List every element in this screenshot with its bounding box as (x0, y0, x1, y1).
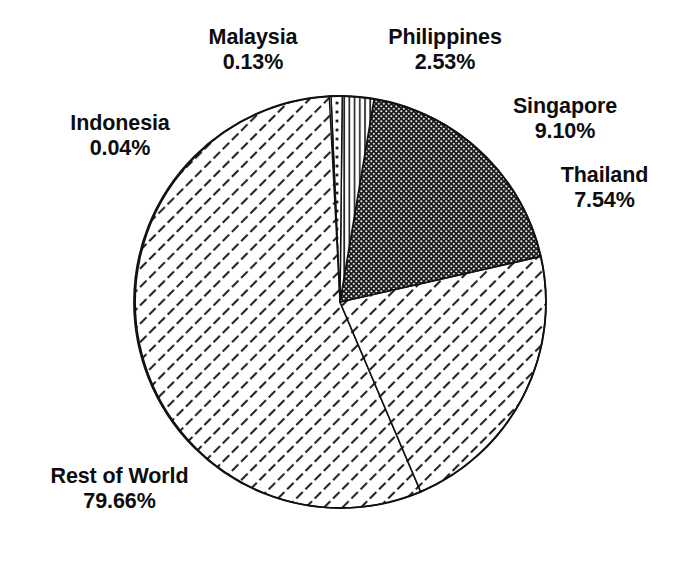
pie-label-thailand: Thailand 7.54% (522, 163, 687, 214)
pie-label-indonesia-value: 0.04% (25, 136, 215, 161)
pie-label-philippines: Philippines 2.53% (345, 25, 545, 76)
pie-label-indonesia-name: Indonesia (25, 111, 215, 136)
pie-chart: Malaysia 0.13% Philippines 2.53% Singapo… (0, 0, 687, 562)
pie-label-malaysia-value: 0.13% (153, 50, 353, 75)
pie-label-singapore: Singapore 9.10% (470, 94, 660, 145)
pie-label-thailand-name: Thailand (522, 163, 687, 188)
pie-label-singapore-name: Singapore (470, 94, 660, 119)
pie-label-malaysia: Malaysia 0.13% (153, 25, 353, 76)
pie-label-thailand-value: 7.54% (522, 188, 687, 213)
pie-label-philippines-value: 2.53% (345, 50, 545, 75)
pie-label-rest-of-world-value: 79.66% (12, 489, 227, 514)
pie-label-rest-of-world-name: Rest of World (12, 464, 227, 489)
pie-label-singapore-value: 9.10% (470, 119, 660, 144)
pie-label-indonesia: Indonesia 0.04% (25, 111, 215, 162)
pie-label-rest-of-world: Rest of World 79.66% (12, 464, 227, 515)
pie-label-malaysia-name: Malaysia (153, 25, 353, 50)
pie-label-philippines-name: Philippines (345, 25, 545, 50)
